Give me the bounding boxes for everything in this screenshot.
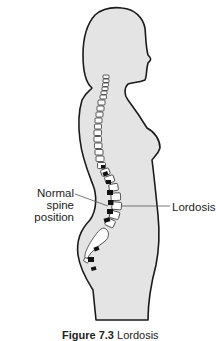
body-silhouette — [78, 8, 160, 320]
lordosis-label: Lordosis — [172, 201, 215, 213]
normal-spine-label: Normal spine position — [8, 187, 74, 223]
figure-caption-text: Lordosis — [117, 329, 159, 341]
normal-spine-label-line2: position — [8, 211, 74, 223]
figure-caption: Figure 7.3 Lordosis — [62, 329, 159, 341]
normal-spine-label-line1: Normal spine — [8, 187, 74, 211]
figure-number: Figure 7.3 — [62, 329, 114, 341]
